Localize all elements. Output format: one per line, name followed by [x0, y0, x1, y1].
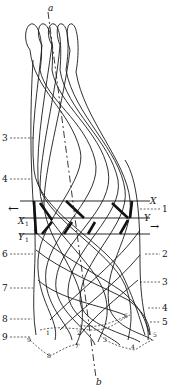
band-label-x1: X — [17, 216, 25, 226]
left-label-9: 9 — [2, 332, 8, 342]
band-label-y1-sub: 1 — [25, 236, 29, 243]
right-label-1: 1 — [162, 204, 168, 214]
helix-strand-diagram: a b 3 4 6 7 8 9 1 2 3 4 5 X Y X 1 Y 1 ← … — [0, 0, 174, 388]
helical-strands — [30, 45, 152, 345]
axis-top-label: a — [48, 3, 53, 13]
band-label-x1-sub: 1 — [25, 220, 29, 227]
band-label-y1: Y — [18, 232, 25, 242]
bottom-label-3: 3 — [103, 336, 107, 343]
bottom-label-7: 7 — [75, 342, 79, 349]
right-label-3: 3 — [162, 277, 168, 287]
bottom-label-9: 9 — [27, 336, 31, 343]
left-arrow-icon: ← — [8, 201, 19, 216]
bottom-label-8: 8 — [47, 352, 51, 359]
bottom-label-1: 1 — [46, 329, 50, 336]
bottom-label-5: 5 — [153, 331, 157, 338]
right-label-4: 4 — [162, 303, 168, 313]
left-label-8: 8 — [2, 314, 8, 324]
left-label-3: 3 — [2, 133, 8, 143]
bottom-label-4: 4 — [131, 343, 135, 350]
left-label-7: 7 — [2, 283, 8, 293]
right-arrow-icon: → — [150, 220, 159, 233]
bottom-label-6: 6 — [124, 312, 128, 319]
left-label-4: 4 — [2, 174, 8, 184]
axis-bottom-label: b — [96, 377, 102, 387]
left-label-6: 6 — [2, 249, 8, 259]
right-label-2: 2 — [162, 249, 168, 259]
right-label-5: 5 — [162, 317, 168, 327]
band-label-x: X — [149, 196, 157, 206]
bottom-label-2: 2 — [77, 329, 81, 336]
center-axis — [48, 12, 96, 378]
